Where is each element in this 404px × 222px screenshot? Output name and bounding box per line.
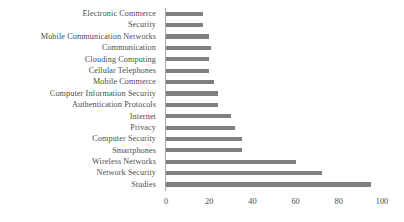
bar — [166, 103, 218, 107]
bar-row — [166, 156, 382, 167]
bar-row — [166, 179, 382, 190]
bar — [166, 171, 322, 175]
category-label: Mobile Commerce — [0, 76, 160, 87]
x-tick-label: 40 — [248, 197, 256, 206]
x-tick-label: 20 — [205, 197, 213, 206]
bar-row — [166, 133, 382, 144]
category-label: Internet — [0, 111, 160, 122]
category-axis-labels: Electronic CommerceSecurityMobile Commun… — [0, 8, 160, 190]
x-tick-label: 100 — [376, 197, 389, 206]
category-label: Authentication Protocols — [0, 99, 160, 110]
bar-row — [166, 19, 382, 30]
category-label: Communication — [0, 42, 160, 53]
category-label: Security — [0, 19, 160, 30]
bar-row — [166, 88, 382, 99]
category-label: Privacy — [0, 122, 160, 133]
bar — [166, 91, 218, 95]
x-tick-label: 60 — [291, 197, 299, 206]
bar — [166, 34, 209, 38]
bar-row — [166, 122, 382, 133]
category-label: Network Security — [0, 167, 160, 178]
category-label: Computer Information Security — [0, 88, 160, 99]
bar-row — [166, 42, 382, 53]
category-label: Wireless Networks — [0, 156, 160, 167]
bar-row — [166, 65, 382, 76]
bar-row — [166, 111, 382, 122]
bar — [166, 182, 371, 186]
bar — [166, 57, 209, 61]
bar — [166, 114, 231, 118]
bar — [166, 137, 242, 141]
bar — [166, 160, 296, 164]
value-axis-ticks: 020406080100 — [0, 191, 404, 211]
bar-row — [166, 31, 382, 42]
category-label: Computer Security — [0, 133, 160, 144]
bar-row — [166, 145, 382, 156]
category-label: Electronic Commerce — [0, 8, 160, 19]
bar-row — [166, 54, 382, 65]
category-label: Cellular Telephones — [0, 65, 160, 76]
bar-row — [166, 8, 382, 19]
bar — [166, 126, 235, 130]
plot-area: Electronic CommerceSecurityMobile Commun… — [0, 0, 404, 222]
bar-chart-figure: Electronic CommerceSecurityMobile Commun… — [0, 0, 404, 222]
category-label: Smartphones — [0, 145, 160, 156]
bar — [166, 148, 242, 152]
bar — [166, 69, 209, 73]
bar — [166, 80, 214, 84]
bar — [166, 12, 203, 16]
bar-row — [166, 167, 382, 178]
category-label: Studies — [0, 179, 160, 190]
bar — [166, 46, 211, 50]
bar-row — [166, 99, 382, 110]
category-label: Clouding Computing — [0, 54, 160, 65]
category-label: Mobile Communication Networks — [0, 31, 160, 42]
bar-series — [166, 8, 382, 190]
x-tick-label: 80 — [335, 197, 343, 206]
bar-row — [166, 76, 382, 87]
x-tick-label: 0 — [164, 197, 168, 206]
bar — [166, 23, 203, 27]
